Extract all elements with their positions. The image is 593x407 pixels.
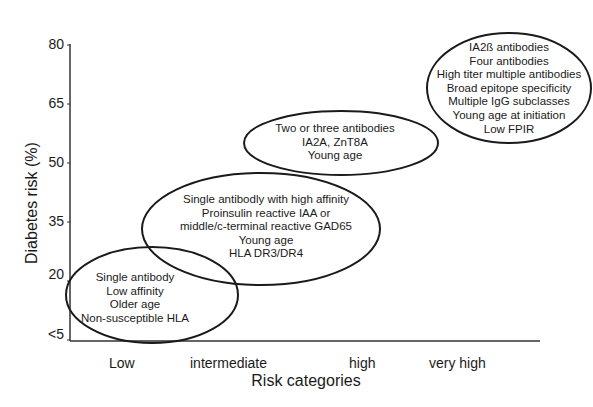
very-high-group-text: IA2ß antibodies Four antibodies High tit… <box>437 41 581 136</box>
intermediate-group-text: Single antibodly with high affinity Proi… <box>180 193 352 261</box>
high-group-text: Two or three antibodies IA2A, ZnT8A Youn… <box>275 122 395 163</box>
very-high-line: High titer multiple antibodies <box>437 68 581 82</box>
very-high-line: IA2ß antibodies <box>437 41 581 55</box>
y-tick-lt5: <5 <box>24 326 64 342</box>
y-tick-65: 65 <box>24 95 64 111</box>
y-tick-20: 20 <box>24 266 64 282</box>
very-high-line: Multiple IgG subclasses <box>437 95 581 109</box>
intermediate-line: middle/c-terminal reactive GAD65 <box>180 220 352 234</box>
very-high-line: Low FPIR <box>437 123 581 137</box>
low-line: Non-susceptible HLA <box>81 312 189 326</box>
very-high-line: Four antibodies <box>437 55 581 69</box>
x-category-low: Low <box>109 355 135 371</box>
high-line: Young age <box>275 149 395 163</box>
low-group-text: Single antibody Low affinity Older age N… <box>81 271 189 325</box>
x-category-intermediate: intermediate <box>190 355 267 371</box>
intermediate-line: Proinsulin reactive IAA or <box>180 207 352 221</box>
intermediate-line: HLA DR3/DR4 <box>180 247 352 261</box>
very-high-line: Young age at initiation <box>437 109 581 123</box>
y-tick-80: 80 <box>24 36 64 52</box>
intermediate-line: Single antibodly with high affinity <box>180 193 352 207</box>
low-line: Single antibody <box>81 271 189 285</box>
x-category-high: high <box>349 355 375 371</box>
low-line: Older age <box>81 298 189 312</box>
intermediate-line: Young age <box>180 234 352 248</box>
very-high-line: Broad epitope specificity <box>437 82 581 96</box>
high-line: Two or three antibodies <box>275 122 395 136</box>
x-category-very-high: very high <box>429 355 486 371</box>
y-tick-35: 35 <box>24 213 64 229</box>
high-line: IA2A, ZnT8A <box>275 136 395 150</box>
y-tick-50: 50 <box>24 154 64 170</box>
low-line: Low affinity <box>81 285 189 299</box>
x-axis-label: Risk categories <box>251 372 360 390</box>
